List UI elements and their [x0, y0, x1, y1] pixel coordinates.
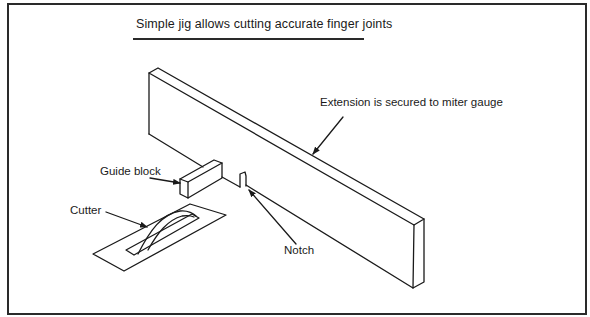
- cutter-callout: Cutter: [70, 204, 101, 216]
- extension-callout: Extension is secured to miter gauge: [320, 96, 503, 108]
- notch-callout: Notch: [284, 244, 314, 256]
- notch-leader-arrow: [249, 190, 296, 244]
- extension-leader-arrow: [313, 117, 343, 154]
- guide-block-leader-arrow: [150, 178, 180, 183]
- guide-block-callout: Guide block: [100, 165, 161, 177]
- cutter-leader-arrow: [106, 212, 147, 227]
- notch: [240, 172, 246, 187]
- jig-drawing: [0, 0, 590, 317]
- leader-lines: [106, 117, 343, 244]
